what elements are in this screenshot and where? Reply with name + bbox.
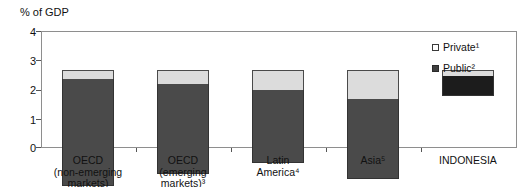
y-tick-mark-4: [36, 31, 41, 32]
y-tick-mark-3: [36, 60, 41, 61]
legend-label-public: Public²: [443, 62, 475, 74]
category-label-asia: Asia⁵: [328, 155, 418, 167]
y-tick-label-1: 1: [8, 115, 36, 126]
stacked-bar-chart: % of GDP 4 3 2 1 0 OECD (non-emerging ma…: [0, 0, 524, 187]
legend-item-private: Private¹: [432, 41, 479, 53]
legend-label-private: Private¹: [443, 41, 479, 53]
bar-segment-public: [347, 99, 399, 179]
chart-legend: Private¹ Public²: [432, 41, 479, 83]
private-swatch-icon: [432, 44, 439, 51]
category-label-oecd-emerging: OECD (emerging markets)³: [138, 155, 228, 187]
y-tick-mark-2: [36, 90, 41, 91]
bar-segment-public: [252, 90, 304, 163]
category-label-latin-america: Latin America⁴: [233, 155, 323, 178]
bar-segment-private: [347, 70, 399, 99]
legend-item-public: Public²: [432, 62, 479, 74]
y-tick-mark-1: [36, 119, 41, 120]
x-tick-mark-4: [421, 148, 422, 152]
category-label-oecd-non-emerging: OECD (non-emerging markets): [43, 155, 133, 187]
bar-segment-private: [62, 70, 114, 79]
x-tick-mark-3: [326, 148, 327, 152]
y-tick-label-0: 0: [8, 143, 36, 154]
bar-segment-private: [157, 70, 209, 84]
y-tick-label-3: 3: [8, 56, 36, 67]
y-tick-label-4: 4: [8, 27, 36, 38]
bar-asia: [347, 70, 399, 187]
category-label-indonesia: INDONESIA: [423, 155, 513, 167]
bar-indonesia: [442, 70, 494, 187]
x-tick-mark-1: [136, 148, 137, 152]
bar-segment-private: [252, 70, 304, 90]
y-axis-title: % of GDP: [20, 6, 69, 19]
y-tick-mark-0: [36, 147, 41, 148]
y-tick-label-2: 2: [8, 85, 36, 96]
x-tick-mark-2: [231, 148, 232, 152]
public-swatch-icon: [432, 65, 439, 72]
